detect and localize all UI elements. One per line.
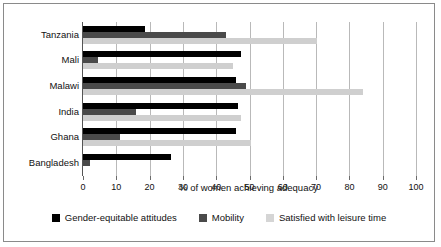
x-tick-90 <box>383 176 384 180</box>
x-tick-70 <box>316 176 317 180</box>
category-label-bangladesh: Bangladesh <box>7 157 79 168</box>
plot-area: 0102030405060708090100TanzaniaMaliMalawi… <box>82 22 416 176</box>
legend-item: Mobility <box>199 212 244 223</box>
x-tick-30 <box>183 176 184 180</box>
category-label-malawi: Malawi <box>7 80 79 91</box>
category-label-tanzania: Tanzania <box>7 29 79 40</box>
x-tick-100 <box>416 176 417 180</box>
x-tick-40 <box>216 176 217 180</box>
x-tick-0 <box>83 176 84 180</box>
legend-label: Gender-equitable attitudes <box>65 212 177 223</box>
bar-group-ghana: Ghana <box>83 125 416 151</box>
bar <box>83 51 241 57</box>
bar <box>83 115 241 121</box>
x-tick-50 <box>250 176 251 180</box>
chart-frame: 0102030405060708090100TanzaniaMaliMalawi… <box>3 3 435 242</box>
legend-swatch-icon <box>52 214 60 222</box>
legend-swatch-icon <box>266 214 274 222</box>
category-label-mali: Mali <box>7 54 79 65</box>
bar-group-mali: Mali <box>83 48 416 74</box>
bar <box>83 160 90 166</box>
bar <box>83 154 171 160</box>
chart-legend: Gender-equitable attitudesMobilitySatisf… <box>4 212 434 223</box>
gridline-100 <box>416 22 417 176</box>
bar-group-tanzania: Tanzania <box>83 22 416 48</box>
x-axis-title: % of women achieving adequacy <box>82 182 415 193</box>
category-label-ghana: Ghana <box>7 131 79 142</box>
bar <box>83 89 363 95</box>
bar <box>83 140 251 146</box>
legend-item: Gender-equitable attitudes <box>52 212 177 223</box>
legend-swatch-icon <box>199 214 207 222</box>
x-tick-20 <box>150 176 151 180</box>
bar-group-bangladesh: Bangladesh <box>83 150 416 176</box>
legend-item: Satisfied with leisure time <box>266 212 386 223</box>
bar <box>83 63 233 69</box>
x-tick-60 <box>283 176 284 180</box>
x-tick-10 <box>116 176 117 180</box>
bar-group-malawi: Malawi <box>83 73 416 99</box>
legend-label: Satisfied with leisure time <box>279 212 386 223</box>
legend-label: Mobility <box>212 212 244 223</box>
bar-group-india: India <box>83 99 416 125</box>
bar <box>83 38 317 44</box>
x-tick-80 <box>349 176 350 180</box>
category-label-india: India <box>7 106 79 117</box>
